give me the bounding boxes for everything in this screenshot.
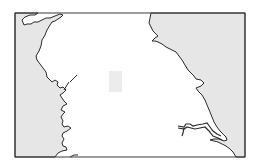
outline-map	[0, 0, 253, 166]
center-marker	[109, 71, 122, 92]
